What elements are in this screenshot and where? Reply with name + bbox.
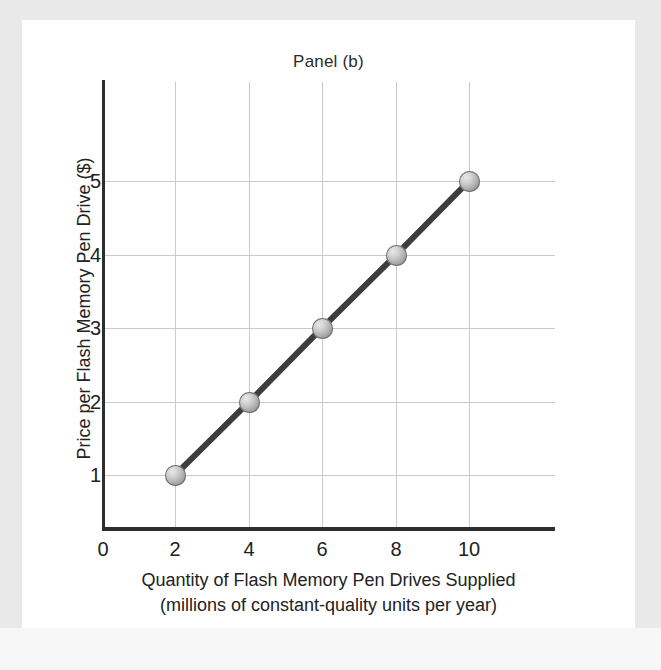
data-point-marker[interactable]: [239, 392, 260, 413]
gridline-horizontal-y4: [103, 255, 555, 256]
y-axis-title: Price per Flash Memory Pen Drive ($): [74, 99, 95, 519]
data-point-marker[interactable]: [459, 171, 480, 192]
x-tick-label-10: 10: [447, 538, 491, 561]
page-margin-left: [0, 0, 22, 670]
data-point-marker[interactable]: [312, 318, 333, 339]
gridline-vertical-x8: [396, 82, 397, 529]
y-axis-line: [102, 80, 105, 530]
gridline-horizontal-y2: [103, 402, 555, 403]
series-line-segment: [173, 400, 251, 477]
page-margin-top: [0, 0, 661, 20]
x-tick-label-2: 2: [153, 538, 197, 561]
x-tick-label-4: 4: [227, 538, 271, 561]
page-margin-right: [635, 0, 661, 670]
gridline-vertical-x10: [469, 82, 470, 529]
x-axis-title: Quantity of Flash Memory Pen Drives Supp…: [22, 568, 635, 618]
x-axis-title-line2: (millions of constant-quality units per …: [22, 593, 635, 618]
series-line-segment: [320, 253, 398, 330]
x-tick-label-8: 8: [374, 538, 418, 561]
gridline-vertical-x2: [175, 82, 176, 529]
data-point-marker[interactable]: [386, 245, 407, 266]
x-tick-label-0: 0: [81, 538, 125, 561]
x-axis-line: [102, 527, 555, 531]
screenshot-root: Panel (b): [0, 0, 661, 670]
chart-card: Panel (b): [22, 20, 635, 628]
series-line-segment: [247, 326, 324, 404]
plot-area: 1 2 3 4 5 0 2 4 6 8 10 Price per Flash M…: [22, 20, 635, 628]
gridline-vertical-x4: [249, 82, 250, 529]
gridline-horizontal-y5: [103, 181, 555, 182]
series-line-segment: [394, 179, 471, 257]
gridline-vertical-x6: [322, 82, 323, 529]
x-tick-label-6: 6: [300, 538, 344, 561]
x-axis-title-line1: Quantity of Flash Memory Pen Drives Supp…: [22, 568, 635, 593]
page-margin-bottom: [0, 628, 661, 670]
data-point-marker[interactable]: [165, 465, 186, 486]
